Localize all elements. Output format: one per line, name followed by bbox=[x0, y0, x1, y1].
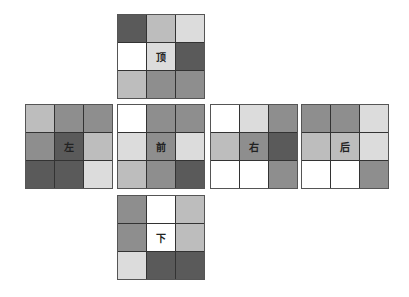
face-front: 前 bbox=[117, 104, 205, 189]
sticker bbox=[84, 161, 112, 188]
sticker bbox=[211, 105, 239, 132]
sticker bbox=[147, 71, 175, 98]
sticker bbox=[118, 252, 146, 279]
sticker bbox=[176, 105, 204, 132]
sticker bbox=[269, 161, 297, 188]
sticker: 后 bbox=[331, 133, 359, 160]
sticker: 前 bbox=[147, 133, 175, 160]
sticker bbox=[211, 133, 239, 160]
sticker bbox=[118, 15, 146, 42]
face-label: 后 bbox=[340, 139, 350, 154]
sticker bbox=[118, 161, 146, 188]
sticker bbox=[269, 105, 297, 132]
sticker bbox=[118, 71, 146, 98]
face-back: 后 bbox=[301, 104, 389, 189]
sticker bbox=[360, 133, 388, 160]
sticker bbox=[26, 133, 54, 160]
sticker bbox=[176, 224, 204, 251]
sticker bbox=[26, 105, 54, 132]
sticker bbox=[176, 71, 204, 98]
sticker bbox=[360, 105, 388, 132]
sticker: 左 bbox=[55, 133, 83, 160]
face-label: 右 bbox=[249, 139, 259, 154]
sticker bbox=[118, 43, 146, 70]
sticker bbox=[118, 133, 146, 160]
face-top: 顶 bbox=[117, 14, 205, 99]
face-right: 右 bbox=[210, 104, 298, 189]
sticker bbox=[176, 43, 204, 70]
face-label: 前 bbox=[156, 139, 166, 154]
sticker bbox=[302, 105, 330, 132]
sticker bbox=[240, 105, 268, 132]
sticker bbox=[360, 161, 388, 188]
sticker bbox=[55, 161, 83, 188]
sticker bbox=[84, 133, 112, 160]
face-label: 下 bbox=[156, 230, 166, 245]
sticker bbox=[147, 161, 175, 188]
sticker bbox=[176, 161, 204, 188]
face-left: 左 bbox=[25, 104, 113, 189]
sticker bbox=[26, 161, 54, 188]
sticker bbox=[240, 161, 268, 188]
sticker: 下 bbox=[147, 224, 175, 251]
sticker bbox=[147, 196, 175, 223]
sticker bbox=[147, 105, 175, 132]
sticker bbox=[211, 161, 239, 188]
face-label: 左 bbox=[64, 139, 74, 154]
sticker bbox=[331, 105, 359, 132]
sticker bbox=[302, 161, 330, 188]
face-label: 顶 bbox=[156, 49, 166, 64]
sticker: 右 bbox=[240, 133, 268, 160]
sticker bbox=[55, 105, 83, 132]
sticker bbox=[118, 196, 146, 223]
sticker bbox=[84, 105, 112, 132]
sticker bbox=[147, 252, 175, 279]
sticker bbox=[176, 15, 204, 42]
sticker bbox=[176, 196, 204, 223]
face-bottom: 下 bbox=[117, 195, 205, 280]
sticker: 顶 bbox=[147, 43, 175, 70]
sticker bbox=[176, 133, 204, 160]
sticker bbox=[118, 224, 146, 251]
sticker bbox=[176, 252, 204, 279]
sticker bbox=[269, 133, 297, 160]
sticker bbox=[331, 161, 359, 188]
sticker bbox=[147, 15, 175, 42]
sticker bbox=[118, 105, 146, 132]
sticker bbox=[302, 133, 330, 160]
